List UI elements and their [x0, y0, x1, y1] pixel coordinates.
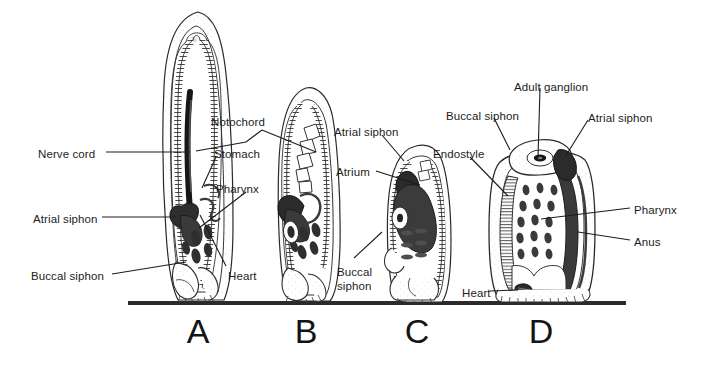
label-endostyle-d: Endostyle	[433, 148, 484, 162]
tunicate-metamorphosis-figure: Nerve cordNotochordStomachPharynxAtrial …	[0, 0, 716, 367]
label-atrial-siphon-d: Atrial siphon	[588, 112, 653, 126]
label-adult-ganglion-d: Adult ganglion	[514, 81, 588, 95]
specimen-d	[489, 140, 595, 303]
leader-atrial-siphon-d	[565, 120, 588, 157]
label-heart-d: Heart	[462, 287, 491, 301]
stage-letter-b: B	[276, 312, 336, 351]
stage-letter-d: D	[511, 312, 571, 351]
label-nerve-cord: Nerve cord	[38, 148, 95, 162]
leader-buccal-siphon-c	[354, 232, 382, 258]
label-anus-d: Anus	[634, 236, 661, 250]
stage-letter-a: A	[168, 312, 228, 351]
label-buccal-siphon-a: Buccal siphon	[31, 270, 104, 284]
specimen-c	[385, 145, 451, 303]
diagram-canvas	[0, 0, 716, 367]
stage-letter-c: C	[387, 312, 447, 351]
label-stomach: Stomach	[214, 148, 260, 162]
label-atrial-siphon-a: Atrial siphon	[33, 213, 98, 227]
label-atrium-c: Atrium	[336, 166, 370, 180]
label-buccal-siphon-c: Buccal siphon	[337, 266, 372, 293]
label-heart-a: Heart	[228, 270, 257, 284]
label-pharynx-d: Pharynx	[634, 204, 677, 218]
label-atrial-siphon-c: Atrial siphon	[334, 126, 399, 140]
label-notochord: Notochord	[211, 116, 265, 130]
label-pharynx-a: Pharynx	[216, 183, 259, 197]
label-buccal-siphon-d: Buccal siphon	[446, 110, 519, 124]
specimen-b	[278, 88, 340, 303]
